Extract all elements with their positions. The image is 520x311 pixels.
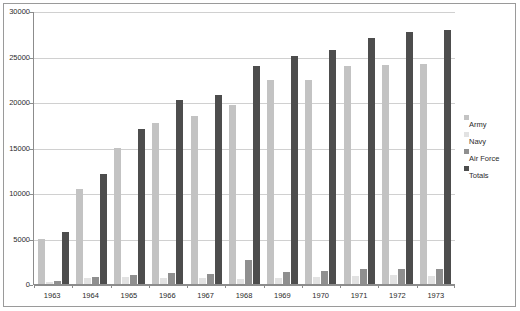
bar-air-force bbox=[168, 273, 175, 284]
x-axis-tick-label: 1971 bbox=[340, 289, 378, 303]
bar-army bbox=[267, 80, 274, 284]
bar-navy bbox=[313, 277, 320, 284]
x-axis-tick-mark bbox=[187, 284, 188, 288]
y-axis-tick-label: 15000 bbox=[9, 145, 30, 153]
bar-navy bbox=[390, 275, 397, 284]
x-axis-tick-mark bbox=[264, 284, 265, 288]
bar-totals bbox=[138, 129, 145, 284]
y-axis-tick-label: 30000 bbox=[9, 8, 30, 16]
bar-air-force bbox=[398, 269, 405, 284]
legend-item-air-force: Air Force bbox=[463, 149, 515, 164]
x-axis-tick-label: 1970 bbox=[302, 289, 340, 303]
legend-label: Air Force bbox=[463, 154, 515, 164]
bar-air-force bbox=[360, 269, 367, 284]
bar-navy bbox=[84, 278, 91, 284]
bar-group bbox=[187, 12, 225, 284]
legend-item-totals: Totals bbox=[463, 166, 515, 181]
x-axis-tick-label: 1965 bbox=[110, 289, 148, 303]
bar-air-force bbox=[283, 272, 290, 284]
bar-totals bbox=[100, 174, 107, 284]
bar-group bbox=[302, 12, 340, 284]
bar-army bbox=[305, 80, 312, 284]
x-axis-tick-label: 1966 bbox=[148, 289, 186, 303]
bar-army bbox=[76, 189, 83, 284]
x-axis-tick-label: 1967 bbox=[186, 289, 224, 303]
bar-navy bbox=[122, 277, 129, 284]
bar-totals bbox=[291, 56, 298, 284]
y-axis-tick-label: 20000 bbox=[9, 99, 30, 107]
legend-label: Army bbox=[463, 120, 515, 130]
bar-group bbox=[340, 12, 378, 284]
bar-army bbox=[344, 66, 351, 284]
x-axis-tick-mark bbox=[111, 284, 112, 288]
bars-layer bbox=[34, 12, 455, 284]
x-axis-tick-mark bbox=[149, 284, 150, 288]
bar-army bbox=[229, 105, 236, 284]
bar-air-force bbox=[54, 281, 61, 284]
bar-air-force bbox=[245, 260, 252, 284]
x-axis-tick-label: 1972 bbox=[378, 289, 416, 303]
bar-totals bbox=[176, 100, 183, 284]
bar-group bbox=[34, 12, 72, 284]
bar-army bbox=[382, 65, 389, 284]
bar-army bbox=[420, 64, 427, 284]
bar-totals bbox=[62, 232, 69, 284]
x-axis-tick-mark bbox=[340, 284, 341, 288]
legend-label: Totals bbox=[463, 171, 515, 181]
x-axis-tick-label: 1963 bbox=[33, 289, 71, 303]
bar-air-force bbox=[436, 269, 443, 284]
bar-group bbox=[111, 12, 149, 284]
x-axis-tick-mark bbox=[34, 284, 35, 288]
bar-navy bbox=[428, 276, 435, 284]
x-axis-tick-mark bbox=[454, 284, 455, 288]
bar-navy bbox=[160, 278, 167, 284]
bar-totals bbox=[215, 95, 222, 284]
bar-group bbox=[149, 12, 187, 284]
bar-air-force bbox=[92, 277, 99, 284]
bar-group bbox=[225, 12, 263, 284]
legend-label: Navy bbox=[463, 137, 515, 147]
bar-totals bbox=[368, 38, 375, 284]
bar-air-force bbox=[130, 275, 137, 284]
bar-navy bbox=[275, 278, 282, 284]
x-axis-tick-label: 1973 bbox=[417, 289, 455, 303]
bar-group bbox=[417, 12, 455, 284]
legend-item-army: Army bbox=[463, 115, 515, 130]
chart-figure: 300002500020000150001000050000 196319641… bbox=[0, 0, 520, 311]
bar-group bbox=[72, 12, 110, 284]
bar-navy bbox=[237, 279, 244, 284]
bar-navy bbox=[46, 282, 53, 284]
bar-navy bbox=[199, 278, 206, 284]
x-axis-tick-label: 1969 bbox=[263, 289, 301, 303]
y-axis-tick-label: 25000 bbox=[9, 54, 30, 62]
x-axis-tick-mark bbox=[225, 284, 226, 288]
bar-air-force bbox=[207, 274, 214, 284]
x-axis-tick-mark bbox=[302, 284, 303, 288]
bar-group bbox=[378, 12, 416, 284]
x-axis-labels: 1963196419651966196719681969197019711972… bbox=[33, 289, 455, 303]
bar-navy bbox=[352, 276, 359, 284]
bar-totals bbox=[253, 66, 260, 284]
y-axis-labels: 300002500020000150001000050000 bbox=[0, 12, 30, 285]
chart-legend: ArmyNavyAir ForceTotals bbox=[463, 115, 515, 183]
x-axis-tick-label: 1964 bbox=[71, 289, 109, 303]
y-axis-tick-mark bbox=[29, 285, 33, 286]
bar-totals bbox=[444, 30, 451, 284]
plot-area bbox=[33, 12, 455, 285]
bar-army bbox=[191, 116, 198, 284]
bar-group bbox=[264, 12, 302, 284]
bar-army bbox=[114, 148, 121, 284]
y-axis-tick-label: 10000 bbox=[9, 190, 30, 198]
bar-army bbox=[38, 239, 45, 285]
bar-army bbox=[152, 123, 159, 284]
bar-air-force bbox=[321, 271, 328, 284]
y-axis-tick-label: 5000 bbox=[13, 236, 30, 244]
bar-totals bbox=[406, 32, 413, 284]
x-axis-tick-mark bbox=[417, 284, 418, 288]
x-axis-tick-mark bbox=[378, 284, 379, 288]
bar-totals bbox=[329, 50, 336, 284]
x-axis-tick-mark bbox=[72, 284, 73, 288]
x-axis-tick-label: 1968 bbox=[225, 289, 263, 303]
legend-item-navy: Navy bbox=[463, 132, 515, 147]
